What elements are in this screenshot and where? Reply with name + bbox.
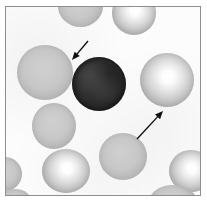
arrow-lower-right-icon [6, 7, 200, 195]
figure-root [0, 0, 207, 208]
micrograph-field [6, 7, 200, 195]
micrograph-frame [5, 6, 201, 196]
